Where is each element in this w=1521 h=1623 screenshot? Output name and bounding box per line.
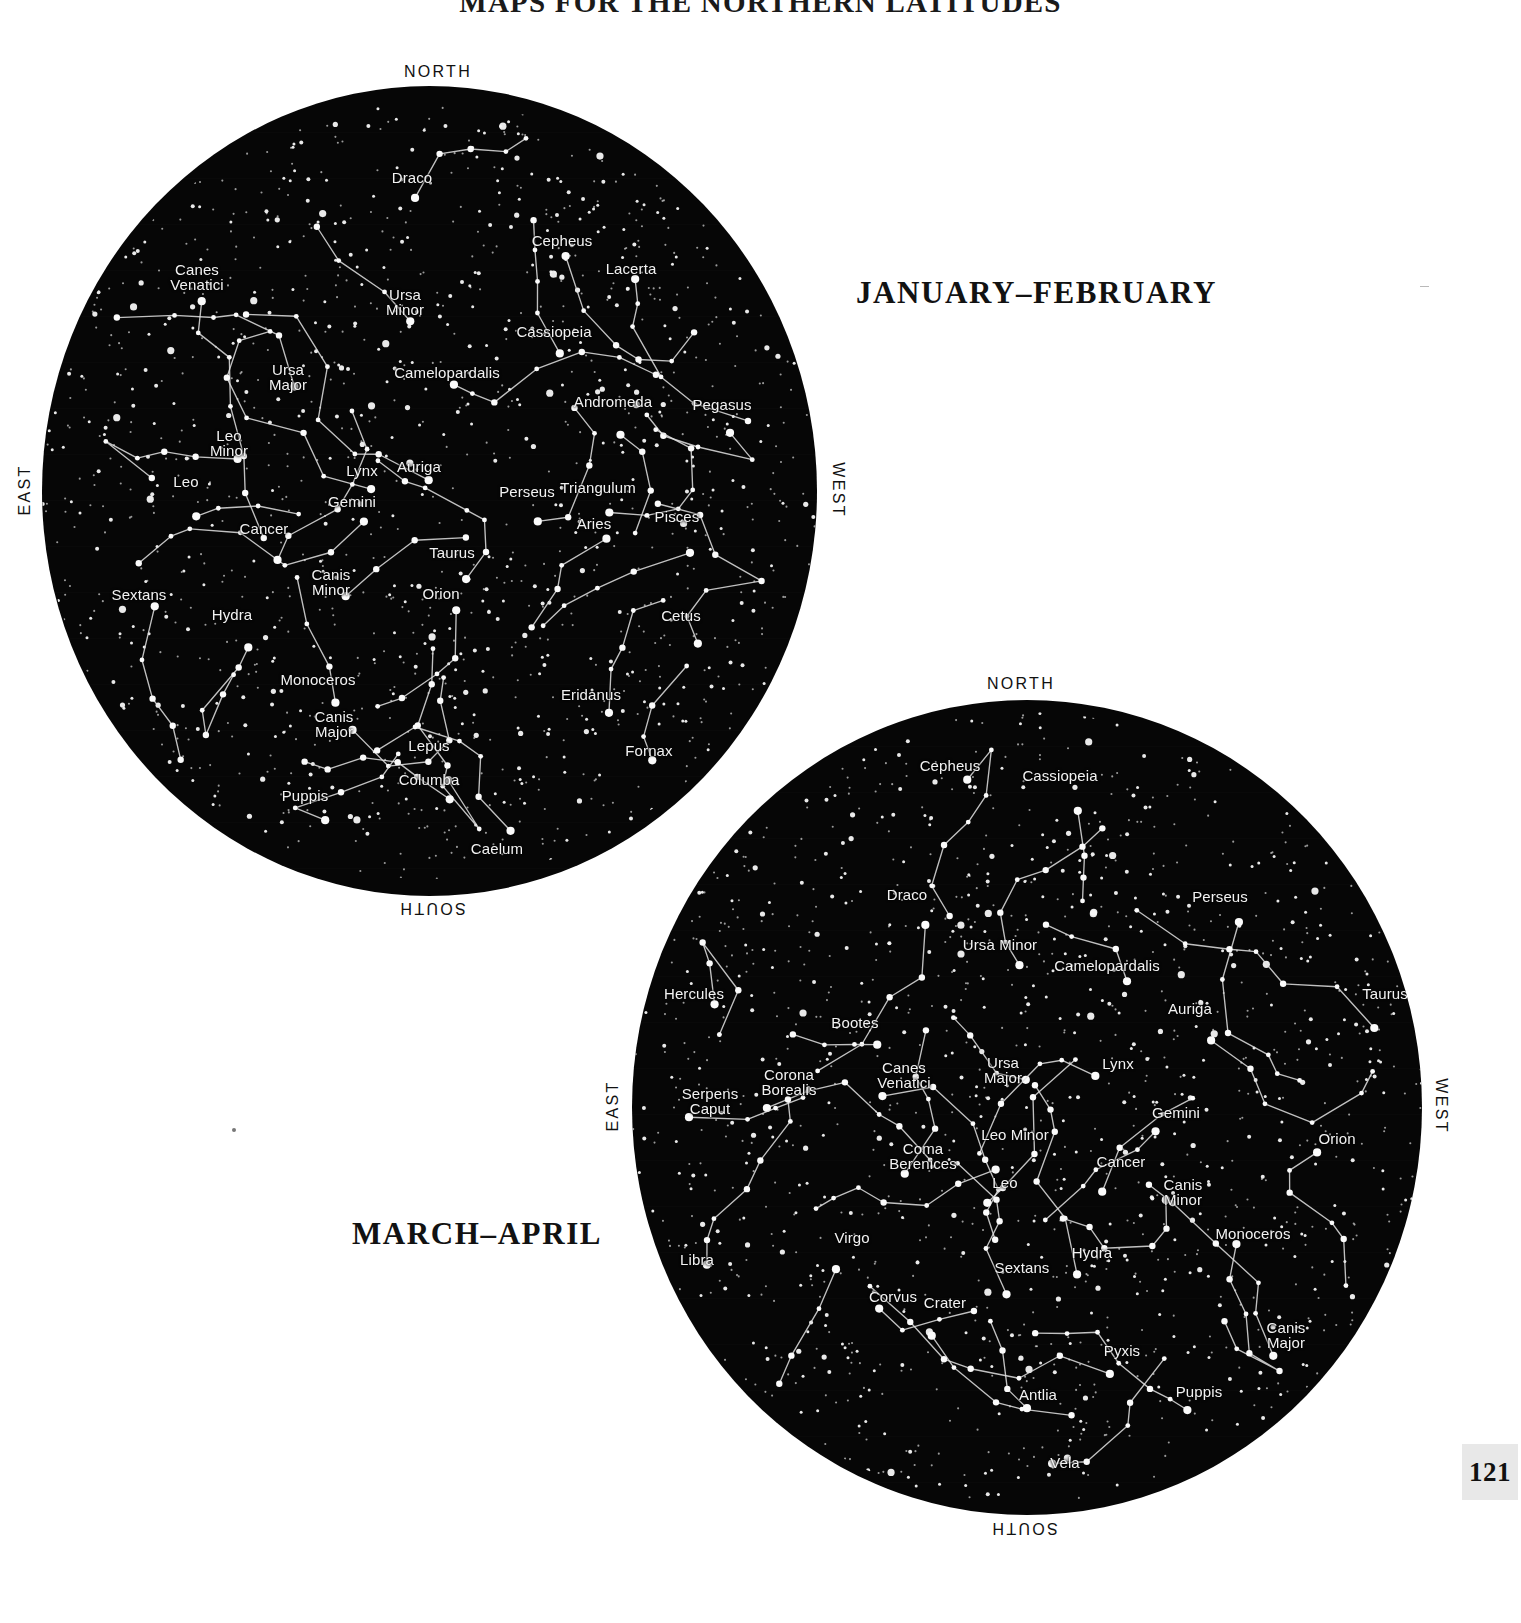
constellation-label: Leo Minor <box>981 1127 1049 1142</box>
constellation-label: Coma Berenices <box>889 1141 957 1172</box>
constellation-label: Ursa Minor <box>963 937 1037 952</box>
compass-south-1: SOUTH <box>398 899 466 917</box>
constellation-label: Hydra <box>212 607 253 622</box>
compass-east-1: EAST <box>16 465 34 516</box>
constellation-label: Draco <box>392 170 433 185</box>
constellation-label: Pisces <box>655 509 700 524</box>
constellation-label: Serpens Caput <box>682 1086 739 1117</box>
constellation-label: Cepheus <box>532 233 593 248</box>
constellation-label: Ursa Major <box>269 362 307 393</box>
constellation-label: Ursa Major <box>984 1055 1022 1086</box>
constellation-label: Taurus <box>429 545 475 560</box>
compass-north-2: NORTH <box>987 675 1055 693</box>
constellation-label: Cancer <box>240 521 289 536</box>
registration-dot <box>232 1128 236 1132</box>
constellation-label: Triangulum <box>560 480 635 495</box>
constellation-label: Pegasus <box>692 397 751 412</box>
constellation-label: Cassiopeia <box>516 324 591 339</box>
constellation-label: Cassiopeia <box>1022 768 1097 783</box>
constellation-label: Cancer <box>1097 1154 1146 1169</box>
constellation-label: Monoceros <box>280 672 355 687</box>
constellation-label: Canis Major <box>1267 1320 1306 1351</box>
constellation-label: Sextans <box>995 1260 1050 1275</box>
constellation-label: Canis Major <box>315 709 354 740</box>
constellation-label: Monoceros <box>1215 1226 1290 1241</box>
compass-north-1: NORTH <box>404 63 472 81</box>
constellation-label: Lepus <box>408 738 449 753</box>
constellation-label: Canis Minor <box>312 567 351 598</box>
constellation-label: Gemini <box>328 494 376 509</box>
constellation-label: Draco <box>887 887 928 902</box>
constellation-label: Gemini <box>1152 1105 1200 1120</box>
constellation-label: Perseus <box>499 484 555 499</box>
constellation-label: Camelopardalis <box>1054 958 1160 973</box>
registration-tick <box>1420 286 1429 287</box>
constellation-label: Ursa Minor <box>386 287 424 318</box>
star-chart-march-april: CepheusCassiopeiaDracoPerseusUrsa MinorC… <box>632 700 1422 1515</box>
constellation-label: Cetus <box>661 608 701 623</box>
constellation-label: Lynx <box>346 463 378 478</box>
constellation-label: Leo Minor <box>210 428 248 459</box>
constellation-label: Libra <box>680 1252 714 1267</box>
constellation-label: Canis Minor <box>1164 1177 1203 1208</box>
constellation-label: Virgo <box>834 1230 869 1245</box>
constellation-label: Corvus <box>869 1289 917 1304</box>
constellation-label: Crater <box>924 1295 966 1310</box>
constellation-label: Canes Venatici <box>877 1060 930 1091</box>
constellation-label: Camelopardalis <box>394 365 500 380</box>
season-label-january-february: JANUARY–FEBRUARY <box>856 275 1217 311</box>
compass-south-2: SOUTH <box>990 1519 1058 1537</box>
constellation-label: Eridanus <box>561 687 621 702</box>
constellation-label: Hercules <box>664 986 724 1001</box>
season-label-march-april: MARCH–APRIL <box>352 1216 602 1252</box>
constellation-label: Caelum <box>471 841 523 856</box>
constellation-label: Canes Venatici <box>170 262 223 293</box>
constellation-label: Perseus <box>1192 889 1248 904</box>
constellation-label: Columba <box>399 772 460 787</box>
constellation-label: Vela <box>1050 1455 1080 1470</box>
constellation-label: Leo <box>992 1175 1017 1190</box>
constellation-label: Orion <box>1318 1131 1355 1146</box>
constellation-label: Auriga <box>1168 1001 1212 1016</box>
constellation-label: Bootes <box>831 1015 878 1030</box>
constellation-label: Sextans <box>112 587 167 602</box>
page-number: 121 <box>1462 1444 1518 1500</box>
page-title: MAPS FOR THE NORTHERN LATITUDES <box>0 0 1521 19</box>
constellation-label: Puppis <box>1176 1384 1222 1399</box>
constellation-label: Pyxis <box>1104 1343 1140 1358</box>
constellation-label: Taurus <box>1362 986 1408 1001</box>
compass-west-2: WEST <box>1432 1078 1450 1133</box>
constellation-label: Hydra <box>1072 1245 1113 1260</box>
compass-east-2: EAST <box>604 1081 622 1132</box>
constellation-label: Orion <box>422 586 459 601</box>
constellation-label: Lacerta <box>606 261 657 276</box>
constellation-label: Cepheus <box>920 758 981 773</box>
compass-west-1: WEST <box>829 462 847 517</box>
constellation-label: Antlia <box>1019 1387 1057 1402</box>
constellation-label: Lynx <box>1102 1056 1134 1071</box>
constellation-label: Andromeda <box>574 394 652 409</box>
constellation-label: Aries <box>577 516 612 531</box>
constellation-label: Leo <box>173 474 198 489</box>
constellation-label: Puppis <box>282 788 328 803</box>
constellation-label: Corona Borealis <box>762 1067 817 1098</box>
constellation-label: Auriga <box>397 459 441 474</box>
